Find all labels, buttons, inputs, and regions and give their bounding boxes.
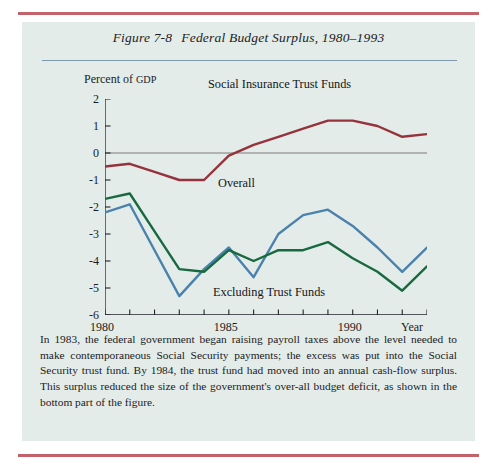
plot-area: 210-1-2-3-4-5-6198019851990YearSocial In…	[105, 99, 427, 315]
y-axis-tick-label: -3	[73, 228, 99, 240]
y-axis-tick-label: -1	[73, 174, 99, 186]
figure-caption: In 1983, the federal government began ra…	[40, 332, 457, 411]
chart-svg	[105, 99, 427, 315]
y-axis-title-acronym: GDP	[136, 74, 156, 85]
chart: Percent of GDP 210-1-2-3-4-5-61980198519…	[22, 66, 475, 318]
y-axis-title-lead: Percent of	[84, 72, 136, 86]
series-annotation-label: Overall	[218, 176, 255, 191]
y-axis-title: Percent of GDP	[84, 72, 156, 87]
bottom-rule	[18, 454, 479, 457]
y-axis-tick-label: 2	[73, 93, 99, 105]
figure-title-text: Federal Budget Surplus, 1980–1993	[181, 30, 384, 45]
figure-number: Figure 7-8	[113, 30, 173, 45]
caption-text: In 1983, the federal government began ra…	[40, 332, 457, 411]
y-axis-tick-label: 1	[73, 120, 99, 132]
top-rule	[18, 12, 479, 15]
series-annotation-label: Social Insurance Trust Funds	[208, 77, 351, 92]
series-annotation-label: Excluding Trust Funds	[213, 285, 325, 300]
y-axis-tick-label: -2	[73, 201, 99, 213]
figure-title: Figure 7-8Federal Budget Surplus, 1980–1…	[22, 30, 475, 46]
y-axis-tick-label: -4	[73, 255, 99, 267]
figure-container: Figure 7-8Federal Budget Surplus, 1980–1…	[22, 22, 475, 441]
y-axis-tick-label: -5	[73, 282, 99, 294]
y-axis-tick-label: 0	[73, 147, 99, 159]
title-divider	[42, 60, 457, 61]
